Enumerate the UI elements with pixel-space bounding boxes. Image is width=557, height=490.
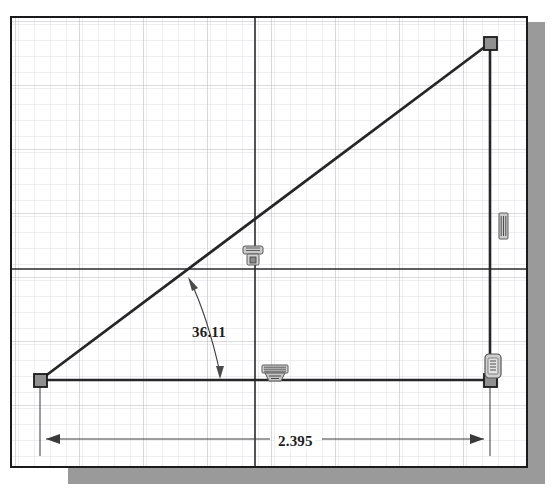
origin-point xyxy=(34,374,47,387)
sketch-application: 36.11 2.395 xyxy=(0,0,557,490)
coincident-icon[interactable] xyxy=(485,354,501,378)
sketch-canvas-svg xyxy=(12,18,526,466)
angle-dimension-value[interactable]: 36.11 xyxy=(192,324,226,341)
linear-dimension-value[interactable]: 2.395 xyxy=(276,433,315,450)
window-shadow-bottom xyxy=(68,466,545,484)
window-shadow-right xyxy=(528,22,545,484)
vertical-icon[interactable] xyxy=(499,213,508,239)
top-right-point xyxy=(484,37,497,50)
grid-layer xyxy=(12,18,526,466)
sketch-drawing-area[interactable]: 36.11 2.395 xyxy=(10,16,528,468)
